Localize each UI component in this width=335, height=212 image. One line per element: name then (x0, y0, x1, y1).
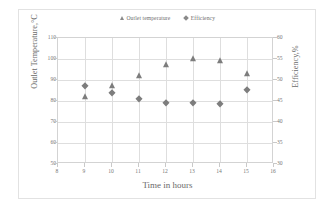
horizontal-gridline (58, 59, 272, 60)
data-point-triangle (163, 62, 169, 68)
y-axis-right-tick-mark (273, 142, 277, 143)
x-axis-tick-mark (246, 163, 247, 167)
data-point-triangle (217, 57, 223, 63)
x-axis-tick-mark (192, 163, 193, 167)
x-axis-tick-mark (111, 163, 112, 167)
y-axis-right-tick-mark (273, 58, 277, 59)
y-axis-right-tick-label: 60 (277, 34, 301, 40)
x-axis-tick-label: 11 (128, 168, 148, 174)
x-axis-tick-mark (138, 163, 139, 167)
y-axis-left-tick-mark (53, 58, 57, 59)
y-axis-right-tick-mark (273, 79, 277, 80)
data-point-triangle (136, 72, 142, 78)
legend-label-outlet-temperature: Outlet temperature (126, 15, 170, 21)
y-axis-left-tick-mark (53, 121, 57, 122)
horizontal-gridline (58, 80, 272, 81)
triangle-marker-icon (120, 16, 124, 20)
data-point-diamond (81, 83, 88, 90)
diamond-marker-icon (184, 15, 190, 21)
y-axis-right-tick-label: 30 (277, 160, 301, 166)
y-axis-right-tick-mark (273, 100, 277, 101)
y-axis-right-tick-label: 55 (277, 55, 301, 61)
y-axis-left-tick-mark (53, 100, 57, 101)
data-point-triangle (190, 55, 196, 61)
horizontal-gridline (58, 122, 272, 123)
vertical-gridline (247, 38, 248, 162)
vertical-gridline (112, 38, 113, 162)
data-point-diamond (108, 89, 115, 96)
y-axis-right-tick-label: 40 (277, 118, 301, 124)
x-axis-tick-mark (219, 163, 220, 167)
data-point-diamond (243, 86, 250, 93)
legend-item-outlet-temperature: Outlet temperature (120, 15, 170, 21)
x-axis-tick-label: 9 (74, 168, 94, 174)
data-point-triangle (244, 70, 250, 76)
legend-item-efficiency: Efficiency (184, 15, 215, 21)
chart-legend: Outlet temperature Efficiency (0, 15, 335, 21)
x-axis-tick-label: 12 (155, 168, 175, 174)
x-axis-title: Time in hours (0, 180, 335, 190)
x-axis-tick-label: 15 (236, 168, 256, 174)
x-axis-tick-mark (57, 163, 58, 167)
y-axis-left-tick-mark (53, 79, 57, 80)
y-axis-right-tick-label: 50 (277, 76, 301, 82)
x-axis-tick-label: 13 (182, 168, 202, 174)
y-axis-left-tick-mark (53, 142, 57, 143)
data-point-triangle (82, 93, 88, 99)
x-axis-tick-label: 8 (47, 168, 67, 174)
y-axis-right-tick-label: 45 (277, 97, 301, 103)
x-axis-tick-mark (165, 163, 166, 167)
y-axis-right-tick-mark (273, 37, 277, 38)
y-axis-right-tick-mark (273, 121, 277, 122)
x-axis-tick-mark (273, 163, 274, 167)
horizontal-gridline (58, 143, 272, 144)
vertical-gridline (85, 38, 86, 162)
x-axis-tick-label: 14 (209, 168, 229, 174)
plot-area (57, 37, 273, 163)
y-axis-right-tick-label: 35 (277, 139, 301, 145)
y-axis-left-tick-mark (53, 37, 57, 38)
legend-label-efficiency: Efficiency (191, 15, 215, 21)
x-axis-tick-label: 16 (263, 168, 283, 174)
x-axis-tick-label: 10 (101, 168, 121, 174)
data-point-triangle (109, 83, 115, 89)
chart-figure: Outlet temperature Efficiency Outlet Tem… (0, 0, 335, 212)
x-axis-tick-mark (84, 163, 85, 167)
